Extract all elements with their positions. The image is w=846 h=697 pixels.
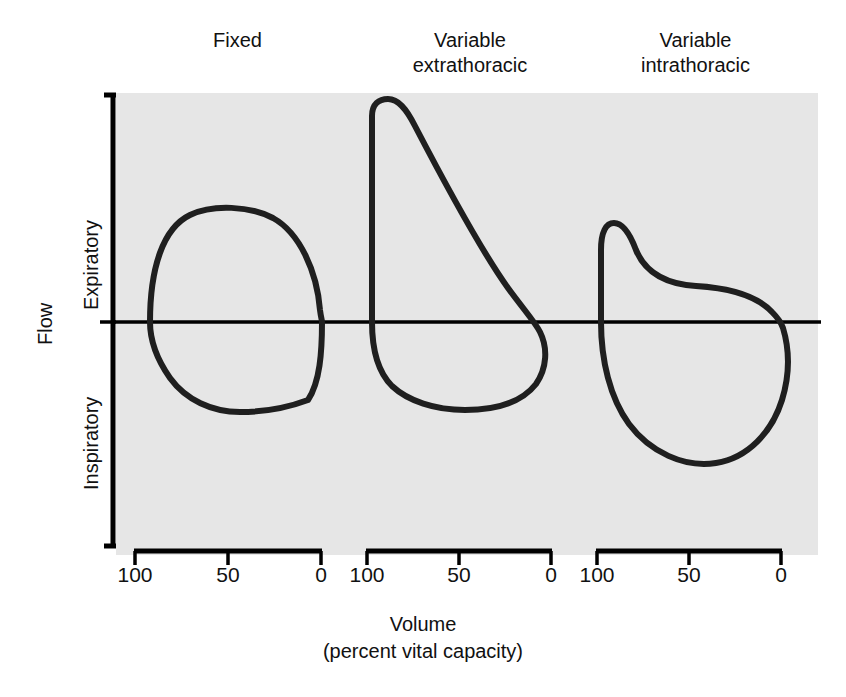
x-tick-intrathoracic-0: 0 [754,563,808,587]
x-tick-extrathoracic-100: 100 [340,563,394,587]
x-tick-fixed-50: 50 [201,563,255,587]
y-axis-label-expiratory: Expiratory [80,220,103,310]
x-tick-extrathoracic-50: 50 [432,563,486,587]
flow-volume-loop-fixed [150,208,322,412]
flow-volume-loop-figure: Fixed Variable extrathoracic Variable in… [0,0,846,697]
y-axis-title: Flow [34,303,57,345]
x-tick-intrathoracic-50: 50 [662,563,716,587]
flow-volume-loop-variable-extrathoracic [372,99,545,410]
y-axis-label-inspiratory: Inspiratory [80,397,103,490]
x-axis-title-sub: (percent vital capacity) [323,640,523,662]
x-axis-title-main: Volume [390,613,457,635]
flow-volume-loop-variable-intrathoracic [601,223,788,464]
x-tick-fixed-100: 100 [108,563,162,587]
x-axis-title: Volume(percent vital capacity) [253,611,593,665]
x-tick-intrathoracic-100: 100 [570,563,624,587]
plot-canvas [0,0,846,697]
